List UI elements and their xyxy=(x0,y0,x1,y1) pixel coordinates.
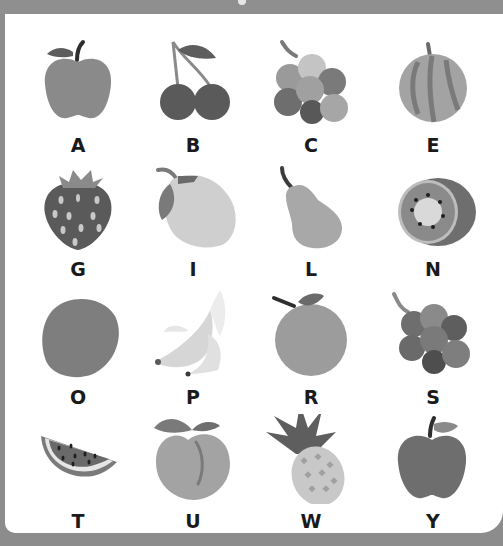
letter-label: Y xyxy=(378,510,488,532)
letter-label: L xyxy=(256,258,366,280)
worksheet-card: A B C E xyxy=(5,14,503,533)
fruit-cell-s: S xyxy=(378,290,488,420)
letter-label: G xyxy=(23,258,133,280)
letter-label: U xyxy=(138,510,248,532)
letter-label: E xyxy=(378,134,488,156)
letter-label: W xyxy=(256,510,366,532)
fruit-cell-n: N xyxy=(378,162,488,292)
cherries-icon xyxy=(148,38,238,128)
fruit-cell-o: O xyxy=(23,290,133,420)
letter-label: A xyxy=(23,134,133,156)
fruit-cell-b: B xyxy=(138,38,248,168)
kiwi-icon xyxy=(388,162,478,252)
peach-icon xyxy=(148,414,238,504)
melon-icon xyxy=(388,38,478,128)
fruit-cell-y: Y xyxy=(378,414,488,544)
letter-label: P xyxy=(138,386,248,408)
grapes-dark-icon xyxy=(388,290,478,380)
lemon-icon xyxy=(148,162,238,252)
fruit-cell-p: P xyxy=(138,290,248,420)
fruit-cell-r: R xyxy=(256,290,366,420)
fruit-cell-a: A xyxy=(23,38,133,168)
apple-red-icon xyxy=(388,414,478,504)
banana-icon xyxy=(148,290,238,380)
fruit-cell-c: C xyxy=(256,38,366,168)
letter-label: O xyxy=(23,386,133,408)
pear-icon xyxy=(266,162,356,252)
fruit-cell-e: E xyxy=(378,38,488,168)
letter-label: R xyxy=(256,386,366,408)
pineapple-icon xyxy=(266,414,356,504)
letter-label: N xyxy=(378,258,488,280)
orange-icon xyxy=(266,290,356,380)
fruit-cell-i: I xyxy=(138,162,248,292)
letter-label: T xyxy=(23,510,133,532)
letter-label: I xyxy=(138,258,248,280)
lime-icon xyxy=(33,290,123,380)
fruit-cell-t: T xyxy=(23,414,133,544)
letter-label: S xyxy=(378,386,488,408)
apple-icon xyxy=(33,38,123,128)
fruit-cell-w: W xyxy=(256,414,366,544)
top-bar xyxy=(0,0,503,14)
letter-label: B xyxy=(138,134,248,156)
fruit-cell-l: L xyxy=(256,162,366,292)
fruit-cell-g: G xyxy=(23,162,133,292)
fruit-cell-u: U xyxy=(138,414,248,544)
watermelon-icon xyxy=(33,414,123,504)
grapes-icon xyxy=(266,38,356,128)
letter-label: C xyxy=(256,134,366,156)
strawberry-icon xyxy=(33,162,123,252)
top-dot xyxy=(238,0,246,5)
